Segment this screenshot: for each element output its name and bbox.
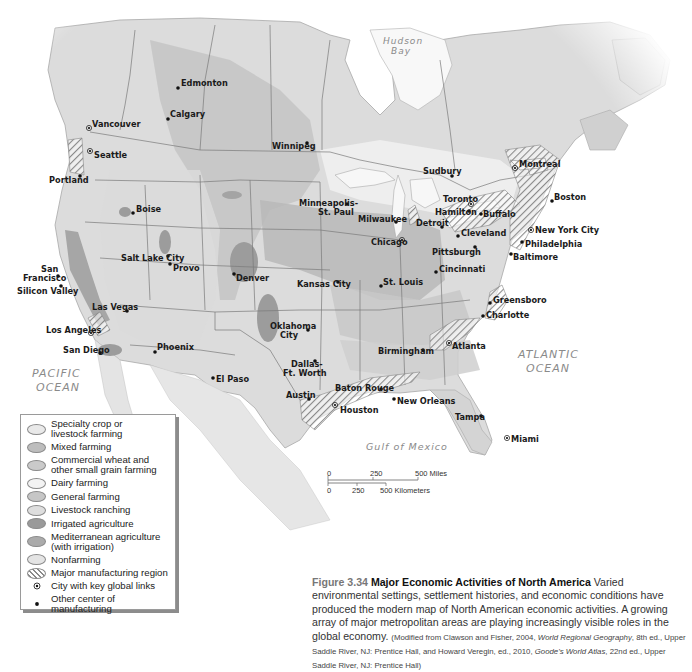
svg-text:Baltimore: Baltimore: [513, 252, 558, 262]
city-milwaukee: Milwaukee: [358, 214, 407, 224]
city-vancouver: Vancouver: [86, 119, 141, 131]
svg-text:Toronto: Toronto: [443, 194, 479, 204]
legend-item-general-farming: General farming: [27, 491, 169, 502]
svg-text:Salt Lake City: Salt Lake City: [121, 253, 185, 263]
svg-text:Atlanta: Atlanta: [452, 341, 486, 351]
svg-text:Cleveland: Cleveland: [461, 228, 506, 238]
legend-item-manufacturing-region: Major manufacturing region: [27, 568, 169, 579]
city-pittsburgh: Pittsburgh: [432, 245, 481, 257]
svg-text:Ft. Worth: Ft. Worth: [283, 368, 327, 378]
svg-text:City: City: [280, 330, 299, 340]
svg-text:250: 250: [352, 486, 365, 495]
city-charlotte: Charlotte: [481, 310, 529, 320]
svg-text:0: 0: [327, 469, 331, 478]
city-boise: Boise: [131, 204, 161, 215]
dairy-farming-swatch-icon: [27, 478, 46, 489]
pacific-ocean-label: PACIFIC: [32, 367, 81, 380]
svg-text:St. Paul: St. Paul: [318, 207, 354, 217]
legend-item-irrigated-agriculture: Irrigated agriculture: [27, 518, 169, 529]
svg-text:Houston: Houston: [340, 405, 379, 415]
pacific-ocean-label: OCEAN: [36, 381, 80, 394]
legend-item-commercial-wheat: Commercial wheat andother small grain fa…: [27, 455, 169, 475]
legend-item-manufacturing-center: Other center of manufacturing: [27, 594, 169, 614]
legend-item-global-city: City with key global links: [27, 581, 169, 591]
legend-item-dairy-farming: Dairy farming: [27, 478, 169, 489]
svg-text:Milwaukee: Milwaukee: [358, 214, 407, 224]
svg-text:New Orleans: New Orleans: [397, 396, 456, 406]
city-los-angeles: Los Angeles: [46, 325, 102, 336]
svg-text:Hamilton: Hamilton: [435, 207, 477, 217]
city-provo: Provo: [168, 262, 200, 273]
livestock-ranching-swatch-icon: [27, 505, 46, 516]
svg-text:0: 0: [327, 486, 331, 495]
legend-item-nonfarming: Nonfarming: [27, 554, 169, 565]
mediterranean-agriculture-swatch-icon: [27, 536, 46, 547]
svg-text:El Paso: El Paso: [216, 374, 249, 384]
city-silicon-valley: Silicon Valley: [17, 284, 79, 296]
svg-text:500 Kilometers: 500 Kilometers: [380, 486, 430, 495]
city-st-louis: St. Louis: [379, 277, 423, 288]
svg-text:New York City: New York City: [535, 225, 600, 235]
svg-text:Provo: Provo: [173, 263, 200, 273]
general-farming-swatch-icon: [27, 491, 46, 502]
nonfarming-swatch-icon: [27, 554, 46, 565]
city-portland: Portland: [49, 174, 89, 185]
svg-text:Vancouver: Vancouver: [92, 119, 141, 129]
city-salt-lake-city: Salt Lake City: [121, 253, 185, 263]
svg-text:Pittsburgh: Pittsburgh: [432, 247, 481, 257]
legend-item-mixed-farming: Mixed farming: [27, 442, 169, 453]
city-san-diego: San Diego: [63, 345, 110, 355]
svg-text:Francisco: Francisco: [23, 273, 67, 283]
svg-text:Buffalo: Buffalo: [483, 209, 516, 219]
atlantic-ocean-label: ATLANTIC: [517, 348, 579, 361]
city-denver: Denver: [232, 272, 270, 283]
city-boston: Boston: [550, 192, 586, 203]
svg-text:Montreal: Montreal: [519, 159, 561, 169]
hudson-bay-label: Hudson: [383, 36, 423, 46]
legend-item-specialty-crop: Specialty crop orlivestock farming: [27, 419, 169, 439]
svg-text:Phoenix: Phoenix: [157, 342, 195, 352]
svg-text:Portland: Portland: [49, 175, 89, 185]
svg-text:Tampa: Tampa: [455, 412, 485, 422]
svg-text:Detroit: Detroit: [416, 218, 449, 228]
commercial-wheat-swatch-icon: [27, 460, 46, 471]
svg-text:250: 250: [370, 469, 383, 478]
specialty-crop-swatch-icon: [27, 424, 46, 435]
figure-number: Figure 3.34: [312, 576, 368, 588]
svg-text:Austin: Austin: [286, 390, 316, 400]
city-cleveland: Cleveland: [456, 228, 506, 238]
legend-item-mediterranean-agriculture: Mediterranean agriculture(with irrigatio…: [27, 532, 169, 552]
hatched-region-swatch-icon: [27, 568, 46, 579]
city-new-york-city: New York City: [528, 225, 599, 235]
city-cincinnati: Cincinnati: [434, 264, 485, 274]
city-buffalo: Buffalo: [479, 209, 516, 219]
svg-text:Calgary: Calgary: [170, 109, 206, 119]
city-baltimore: Baltimore: [509, 252, 558, 262]
city-new-orleans: New Orleans: [392, 396, 455, 406]
map-legend: Specialty crop orlivestock farming Mixed…: [20, 414, 176, 610]
city-seattle: Seattle: [87, 148, 127, 160]
city-montreal: Montreal: [512, 159, 560, 171]
dot-icon: [27, 600, 46, 608]
ring-dot-icon: [27, 582, 46, 590]
svg-text:Los Angeles: Los Angeles: [46, 325, 102, 335]
svg-text:Las Vegas: Las Vegas: [92, 302, 138, 312]
svg-text:Silicon Valley: Silicon Valley: [17, 286, 79, 296]
svg-text:Seattle: Seattle: [94, 150, 128, 160]
gulf-of-mexico-label: Gulf of Mexico: [366, 441, 448, 452]
svg-text:500 Miles: 500 Miles: [415, 469, 447, 478]
figure-title: Major Economic Activities of North Ameri…: [371, 576, 591, 588]
city-greensboro: Greensboro: [488, 295, 547, 305]
city-tampa: Tampa: [455, 412, 485, 422]
city-philadelphia: Philadelphia: [520, 239, 582, 249]
svg-text:Boise: Boise: [136, 204, 162, 214]
atlantic-ocean-label: OCEAN: [526, 362, 570, 375]
svg-text:Denver: Denver: [236, 273, 270, 283]
city-atlanta: Atlanta: [446, 340, 485, 351]
svg-text:Chicago: Chicago: [371, 237, 408, 247]
svg-text:Birmingham: Birmingham: [378, 346, 434, 356]
svg-text:Charlotte: Charlotte: [486, 310, 530, 320]
svg-text:St. Louis: St. Louis: [383, 277, 423, 287]
figure-caption: Figure 3.34 Major Economic Activities of…: [312, 576, 687, 672]
svg-text:Boston: Boston: [554, 192, 586, 202]
